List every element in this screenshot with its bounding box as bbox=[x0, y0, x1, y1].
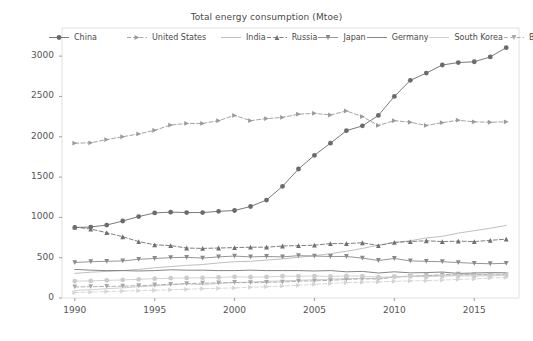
x-tick-label: 1995 bbox=[133, 305, 177, 315]
series-russia bbox=[72, 225, 508, 251]
legend-item-germany[interactable]: Germany bbox=[366, 31, 429, 44]
legend-marker-icon bbox=[503, 32, 525, 43]
legend-item-china[interactable]: China bbox=[48, 31, 126, 44]
legend-label: India bbox=[246, 32, 266, 43]
plot-area bbox=[0, 0, 533, 341]
legend-item-brazil[interactable]: Brazil bbox=[503, 31, 533, 44]
series-united-states bbox=[72, 109, 508, 146]
legend-marker-icon bbox=[48, 32, 70, 43]
legend-item-south-korea[interactable]: South Korea bbox=[428, 31, 502, 44]
legend-marker-icon bbox=[126, 32, 148, 43]
legend-label: China bbox=[74, 32, 97, 43]
x-tick-label: 2005 bbox=[292, 305, 336, 315]
legend-marker-icon bbox=[366, 32, 388, 43]
legend-label: Brazil bbox=[529, 32, 533, 43]
legend-item-united-states[interactable]: United States bbox=[126, 31, 220, 44]
legend-item-russia[interactable]: Russia bbox=[266, 31, 318, 44]
chart-container: Total energy consumption (Mtoe) 05001000… bbox=[0, 0, 533, 341]
series-lines bbox=[72, 45, 508, 295]
x-tick-label: 1990 bbox=[53, 305, 97, 315]
tick-marks bbox=[59, 56, 474, 301]
series-china bbox=[72, 45, 508, 230]
y-tick-label: 3000 bbox=[12, 50, 54, 60]
y-tick-label: 500 bbox=[12, 252, 54, 262]
chart-legend: ChinaUnited StatesIndiaRussiaJapanGerman… bbox=[48, 31, 220, 44]
y-tick-label: 0 bbox=[12, 292, 54, 302]
legend-item-india[interactable]: India bbox=[220, 31, 266, 44]
x-tick-label: 2015 bbox=[452, 305, 496, 315]
y-tick-label: 1500 bbox=[12, 171, 54, 181]
x-tick-label: 2010 bbox=[372, 305, 416, 315]
axis-spines bbox=[62, 28, 519, 298]
series-india bbox=[75, 225, 506, 273]
series-canada bbox=[72, 273, 508, 284]
legend-item-japan[interactable]: Japan bbox=[317, 31, 365, 44]
legend-marker-icon bbox=[317, 32, 339, 43]
legend-marker-icon bbox=[428, 32, 450, 43]
y-tick-label: 2000 bbox=[12, 131, 54, 141]
legend-label: Russia bbox=[292, 32, 318, 43]
legend-marker-icon bbox=[266, 32, 288, 43]
y-tick-label: 1000 bbox=[12, 211, 54, 221]
series-japan bbox=[72, 253, 508, 266]
legend-label: South Korea bbox=[454, 32, 502, 43]
x-tick-label: 2000 bbox=[213, 305, 257, 315]
legend-label: United States bbox=[152, 32, 206, 43]
legend-marker-icon bbox=[220, 32, 242, 43]
y-tick-label: 2500 bbox=[12, 90, 54, 100]
legend-label: Japan bbox=[343, 32, 365, 43]
legend-label: Germany bbox=[392, 32, 429, 43]
